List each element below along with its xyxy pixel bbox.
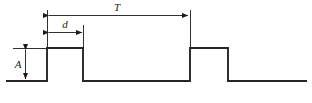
pulse-waveform-diagram: T d A (0, 0, 312, 103)
period-label: T (114, 1, 121, 13)
amplitude-label: A (14, 58, 22, 70)
pulse-width-label: d (62, 18, 68, 30)
amplitude-dimension: A (14, 50, 26, 79)
period-dimension: T (49, 1, 188, 16)
pulse-width-dimension: d (49, 18, 82, 33)
pulse-train-signal-trace (6, 48, 307, 81)
waveform-figure: T d A (0, 0, 312, 103)
